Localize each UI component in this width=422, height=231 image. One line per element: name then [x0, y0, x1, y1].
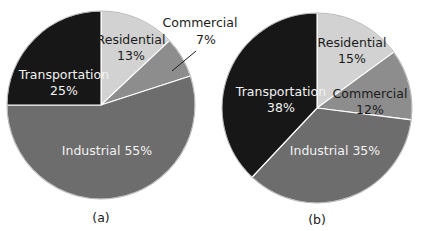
slice-label-commercial: Commercial	[163, 15, 238, 30]
slice-value-residential: 15%	[338, 51, 366, 66]
slice-value-commercial: 12%	[356, 102, 384, 117]
pie-chart-a: Residential 13%Commercial 7%Industrial 5…	[7, 11, 237, 225]
slice-label-industrial: Industrial 35%	[290, 143, 381, 158]
chart-caption: (a)	[92, 210, 109, 225]
slice-value-transportation: 25%	[50, 83, 78, 98]
pie-chart-figure: Residential 13%Commercial 7%Industrial 5…	[0, 0, 422, 231]
chart-caption: (b)	[308, 212, 326, 227]
slice-label-residential: Residential	[318, 35, 387, 50]
slice-value-residential: 13%	[117, 48, 145, 63]
slice-label-industrial: Industrial 55%	[62, 143, 153, 158]
pie-chart-b: Residential 15%Commercial 12%Industrial …	[222, 13, 412, 227]
slice-value-transportation: 38%	[267, 100, 295, 115]
slice-label-transportation: Transportation	[235, 84, 326, 99]
slice-label-transportation: Transportation	[18, 67, 109, 82]
slice-label-commercial: Commercial	[333, 86, 408, 101]
slice-value-commercial: 7%	[196, 32, 216, 47]
slice-label-residential: Residential	[97, 32, 166, 47]
pie-charts-canvas: Residential 13%Commercial 7%Industrial 5…	[0, 0, 422, 231]
